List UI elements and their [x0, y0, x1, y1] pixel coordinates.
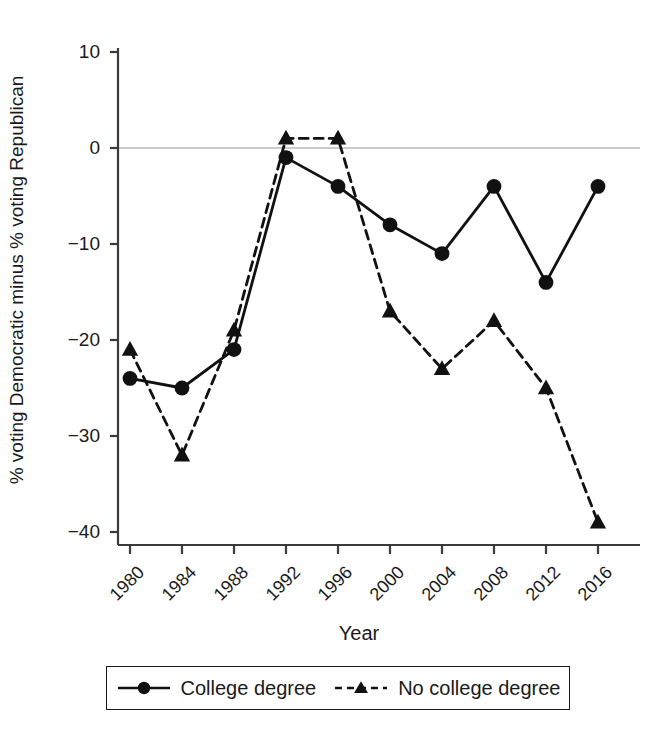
legend-key-dashed-line-triangle-marker	[333, 678, 389, 698]
data-point-circle	[487, 179, 502, 194]
series-college-degree	[123, 150, 606, 395]
data-point-triangle	[486, 312, 502, 327]
data-point-triangle	[122, 341, 138, 356]
data-point-circle	[383, 217, 398, 232]
legend-label-no-college-degree: No college degree	[398, 677, 560, 700]
data-point-triangle	[382, 303, 398, 318]
series-line	[130, 158, 598, 388]
legend-item-college-degree[interactable]: College degree	[116, 677, 317, 700]
data-series-layer	[122, 130, 606, 529]
legend-key-solid-line-circle-marker	[116, 678, 172, 698]
x-axis-ticks	[130, 545, 598, 554]
data-point-circle	[435, 246, 450, 261]
data-point-circle	[331, 179, 346, 194]
data-point-circle	[175, 381, 190, 396]
legend-item-no-college-degree[interactable]: No college degree	[333, 677, 560, 700]
chart-figure: % voting Democratic minus % voting Repub…	[0, 0, 652, 733]
chart-legend: College degree No college degree	[106, 666, 570, 710]
legend-label-college-degree: College degree	[181, 677, 317, 700]
data-point-circle	[591, 179, 606, 194]
x-axis-title: Year	[120, 622, 598, 645]
series-line	[130, 138, 598, 522]
data-point-circle	[227, 342, 242, 357]
data-point-triangle	[174, 447, 190, 462]
data-point-triangle	[590, 514, 606, 529]
y-axis-ticks	[110, 52, 118, 532]
series-no-college-degree	[122, 130, 606, 529]
data-point-circle	[123, 371, 138, 386]
data-point-circle	[539, 275, 554, 290]
